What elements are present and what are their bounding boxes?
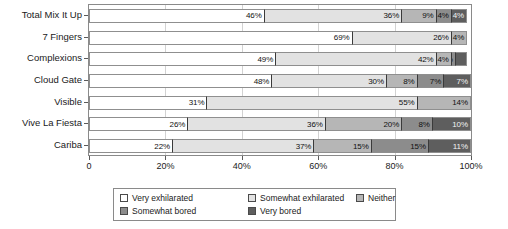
- bar-segment-value-label: 4%: [453, 33, 466, 42]
- plot-wrapper: Total Mix It Up7 FingersComplexionsCloud…: [0, 0, 508, 172]
- legend-swatch-icon: [356, 194, 364, 202]
- bar-segment-value-label: 11%: [453, 142, 470, 151]
- bar-segment-value-label: 9%: [422, 11, 435, 20]
- bar-row: 31%55%14%: [89, 96, 471, 110]
- x-axis: 020%40%60%80%100%: [88, 156, 472, 176]
- bar-segment-value-label: 14%: [452, 98, 470, 107]
- y-axis-label: 7 Fingers: [0, 32, 82, 42]
- x-axis-tick-label: 20%: [156, 161, 174, 172]
- bar-segment: 4%: [452, 31, 467, 45]
- bar-row: 69%26%4%: [89, 31, 471, 45]
- bar-segment: 15%: [372, 139, 429, 153]
- legend-item[interactable]: Very exhilarated: [120, 193, 193, 203]
- bar-segment-value-label: 10%: [452, 120, 470, 129]
- x-axis-tick: [165, 156, 166, 160]
- bar-segment-value-label: 26%: [170, 120, 188, 129]
- y-axis-label: Total Mix It Up: [0, 10, 82, 20]
- legend-item[interactable]: Somewhat bored: [120, 206, 196, 216]
- bar-segment: 36%: [265, 9, 403, 23]
- bar-segment-value-label: 7%: [430, 77, 443, 86]
- bar-segment-value-label: 8%: [403, 77, 416, 86]
- bar-segment: 9%: [402, 9, 436, 23]
- bar-segment: 4%: [437, 52, 452, 66]
- bar-row: 49%42%4%1%: [89, 52, 471, 66]
- legend-label: Very bored: [260, 206, 301, 216]
- bar-segment-value-label: 15%: [410, 142, 428, 151]
- bar-segment: 31%: [89, 96, 207, 110]
- stacked-bar-chart: Total Mix It Up7 FingersComplexionsCloud…: [0, 0, 508, 229]
- bar-segment: 55%: [207, 96, 417, 110]
- y-axis-tick: [84, 80, 88, 81]
- legend-swatch-icon: [248, 194, 256, 202]
- bar-segment: 7%: [444, 74, 471, 88]
- x-axis-tick: [318, 156, 319, 160]
- y-axis-tick: [84, 102, 88, 103]
- legend-items-container: Very exhilaratedSomewhat exhilaratedNeit…: [120, 193, 391, 217]
- bar-segment: 69%: [89, 31, 353, 45]
- legend-swatch-icon: [120, 194, 128, 202]
- bar-row: 46%36%9%4%4%: [89, 9, 471, 23]
- x-axis-tick-label: 100%: [459, 161, 482, 172]
- x-axis-tick: [395, 156, 396, 160]
- bar-segment: 8%: [387, 74, 418, 88]
- bar-segment-value-label: 69%: [334, 33, 352, 42]
- legend-label: Neither: [368, 193, 395, 203]
- bar-segment: 37%: [173, 139, 314, 153]
- bar-segment-value-label: 30%: [368, 77, 386, 86]
- legend-swatch-icon: [248, 207, 256, 215]
- x-axis-tick: [471, 156, 472, 160]
- y-axis-tick: [84, 58, 88, 59]
- bar-segment: 11%: [429, 139, 471, 153]
- y-axis-label: Complexions: [0, 53, 82, 63]
- bar-segment-value-label: 42%: [418, 55, 436, 64]
- bar-segment: 14%: [418, 96, 471, 110]
- bar-segment-value-label: 48%: [254, 77, 272, 86]
- bar-segment: 4%: [452, 9, 467, 23]
- legend-item[interactable]: Neither: [356, 193, 395, 203]
- y-axis-tick: [84, 145, 88, 146]
- bar-segment: 10%: [433, 117, 471, 131]
- bar-segment-value-label: 55%: [399, 98, 417, 107]
- bar-segment: [456, 52, 467, 66]
- bar-segment: 4%: [437, 9, 452, 23]
- y-axis-label: Vive La Fiesta: [0, 118, 82, 128]
- bar-row: 22%37%15%15%11%: [89, 139, 471, 153]
- bar-segment: 46%: [89, 9, 265, 23]
- bar-segment: 20%: [326, 117, 402, 131]
- y-axis-tick: [84, 15, 88, 16]
- bar-segment-value-label: 7%: [457, 77, 470, 86]
- bar-segment-value-label: 46%: [246, 11, 264, 20]
- legend-label: Somewhat exhilarated: [260, 193, 344, 203]
- legend-swatch-icon: [120, 207, 128, 215]
- bar-row: 26%36%20%8%10%: [89, 117, 471, 131]
- bar-segment-value-label: 20%: [384, 120, 402, 129]
- bar-segment-value-label: 1%: [452, 55, 455, 64]
- bar-segment: 49%: [89, 52, 276, 66]
- y-axis-tick: [84, 37, 88, 38]
- bar-segment: 42%: [276, 52, 436, 66]
- legend-item[interactable]: Very bored: [248, 206, 301, 216]
- bar-row: 48%30%8%7%7%: [89, 74, 471, 88]
- x-axis-tick-label: 40%: [233, 161, 251, 172]
- y-axis-label: Visible: [0, 97, 82, 107]
- bar-segment-value-label: 49%: [257, 55, 275, 64]
- x-axis-tick-label: 60%: [309, 161, 327, 172]
- bar-segment-value-label: 4%: [438, 55, 451, 64]
- bar-segment: 48%: [89, 74, 272, 88]
- bar-segment: 7%: [418, 74, 445, 88]
- bar-segment: 15%: [314, 139, 371, 153]
- y-axis-category-labels: Total Mix It Up7 FingersComplexionsCloud…: [0, 4, 82, 156]
- bar-segment-value-label: 22%: [154, 142, 172, 151]
- bar-segment: 22%: [89, 139, 173, 153]
- legend-label: Somewhat bored: [132, 206, 196, 216]
- x-axis-tick-label: 0: [86, 161, 91, 172]
- chart-legend: Very exhilaratedSomewhat exhilaratedNeit…: [113, 188, 396, 221]
- bar-segment: 8%: [402, 117, 433, 131]
- x-axis-tick-label: 80%: [386, 161, 404, 172]
- bar-segment-value-label: 36%: [307, 120, 325, 129]
- legend-item[interactable]: Somewhat exhilarated: [248, 193, 344, 203]
- legend-label: Very exhilarated: [132, 193, 193, 203]
- bar-segment-value-label: 37%: [296, 142, 314, 151]
- bar-segment-value-label: 26%: [433, 33, 451, 42]
- y-axis-label: Cloud Gate: [0, 75, 82, 85]
